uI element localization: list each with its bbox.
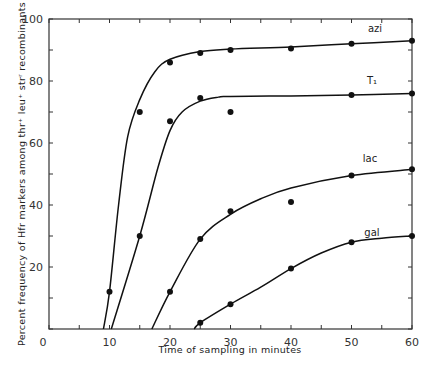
data-point-azi xyxy=(349,41,355,47)
data-point-t1 xyxy=(167,118,173,124)
data-point-t1 xyxy=(409,90,415,96)
data-point-gal xyxy=(197,320,203,326)
data-point-azi xyxy=(107,289,113,295)
curve-azi xyxy=(103,41,412,329)
data-point-lac xyxy=(228,208,234,214)
data-point-lac xyxy=(288,199,294,205)
data-point-azi xyxy=(137,109,143,115)
series-labels: aziT₁lacgal xyxy=(363,23,382,238)
series-label-lac: lac xyxy=(363,153,377,164)
series-label-t1: T₁ xyxy=(366,75,377,86)
data-point-azi xyxy=(228,47,234,53)
data-point-lac xyxy=(349,173,355,179)
y-tick-label: 80 xyxy=(29,75,43,88)
y-tick-label: 40 xyxy=(29,199,43,212)
data-point-lac xyxy=(409,166,415,172)
curve-gal xyxy=(194,236,412,329)
y-tick-label: 60 xyxy=(29,137,43,150)
curve-lac xyxy=(152,169,412,329)
data-point-azi xyxy=(409,38,415,44)
x-tick-label: 10 xyxy=(103,336,117,349)
curve-t1 xyxy=(111,93,412,329)
series-curves xyxy=(103,41,412,329)
data-point-t1 xyxy=(228,109,234,115)
data-point-azi xyxy=(197,50,203,56)
series-label-azi: azi xyxy=(368,23,382,34)
data-point-azi xyxy=(167,59,173,65)
data-point-t1 xyxy=(137,233,143,239)
chart-canvas: 010203040506020406080100 aziT₁lacgal Tim… xyxy=(0,0,430,366)
x-tick-label: 50 xyxy=(345,336,359,349)
x-tick-label: 0 xyxy=(40,336,47,349)
data-point-lac xyxy=(197,236,203,242)
data-point-t1 xyxy=(349,92,355,98)
data-point-gal xyxy=(349,239,355,245)
axes: 010203040506020406080100 xyxy=(22,13,419,349)
x-axis-label: Time of sampling in minutes xyxy=(157,344,301,355)
y-axis-label: Percent frequency of Hfr markers among t… xyxy=(16,2,27,346)
y-tick-label: 20 xyxy=(29,261,43,274)
data-point-gal xyxy=(409,233,415,239)
data-point-gal xyxy=(288,266,294,272)
series-label-gal: gal xyxy=(364,227,379,238)
data-point-t1 xyxy=(197,95,203,101)
data-point-lac xyxy=(167,289,173,295)
data-point-gal xyxy=(228,301,234,307)
data-point-azi xyxy=(288,45,294,51)
x-tick-label: 60 xyxy=(405,336,419,349)
